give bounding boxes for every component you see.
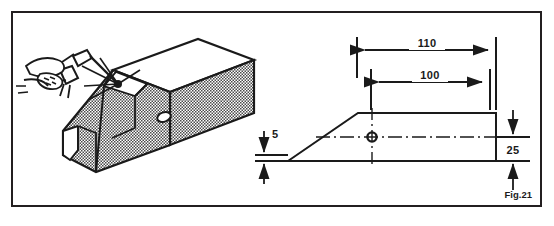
hand-wrist-lines bbox=[16, 86, 28, 93]
dimension-110: 110 bbox=[365, 36, 488, 50]
dimension-label-25: 25 bbox=[507, 144, 520, 156]
dimension-label-110: 110 bbox=[418, 37, 437, 49]
dimension-25: 25 bbox=[507, 110, 520, 190]
hand-grip-link bbox=[62, 54, 74, 62]
figure-container: 110 100 25 5 Fig.21 bbox=[0, 0, 554, 226]
figure-caption: Fig.21 bbox=[505, 189, 533, 200]
torch-body bbox=[73, 50, 92, 66]
dimension-100: 100 bbox=[379, 68, 482, 82]
dimension-label-100: 100 bbox=[420, 69, 439, 81]
isometric-welding-illustration bbox=[16, 39, 254, 172]
dimension-label-5: 5 bbox=[272, 128, 278, 140]
figure-artwork: 110 100 25 5 Fig.21 bbox=[0, 0, 554, 226]
orthographic-side-view: 110 100 25 5 bbox=[255, 36, 530, 190]
